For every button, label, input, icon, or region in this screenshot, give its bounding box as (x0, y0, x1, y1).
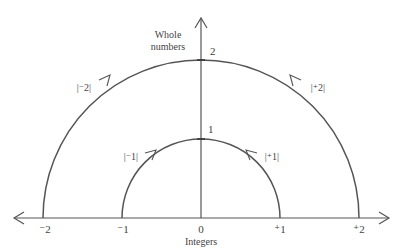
whole-tick-label-1: 1 (208, 123, 214, 135)
outer-left-arrow-icon (99, 75, 110, 86)
whole-tick-label-2: 2 (210, 45, 216, 57)
integer-tick-label-0: 0 (198, 223, 204, 235)
inner-right-arc-label: |⁺1| (265, 151, 279, 162)
integer-tick-label-pos1: ⁺1 (274, 223, 285, 235)
outer-right-arc-label: |⁺2| (311, 82, 325, 93)
integer-tick-label-neg1: ⁻1 (117, 223, 128, 235)
integer-tick-label-pos2: ⁺2 (353, 223, 364, 235)
integers-label: Integers (185, 236, 217, 247)
outer-right-arrow-icon (290, 75, 301, 86)
inner-right-arrow-icon (246, 150, 257, 160)
diagram-canvas: Whole numbers 2 1 |⁻2| |⁺2| |⁻1| |⁺1| ⁻2… (0, 0, 405, 250)
inner-left-arc-label: |⁻1| (124, 151, 138, 162)
whole-numbers-label-line1: Whole (155, 29, 182, 40)
outer-left-arc-label: |⁻2| (77, 82, 91, 93)
absolute-value-diagram: Whole numbers 2 1 |⁻2| |⁺2| |⁻1| |⁺1| ⁻2… (0, 0, 405, 250)
whole-numbers-label-line2: numbers (151, 41, 186, 52)
integer-tick-label-neg2: ⁻2 (39, 223, 50, 235)
inner-left-arrow-icon (145, 150, 156, 160)
